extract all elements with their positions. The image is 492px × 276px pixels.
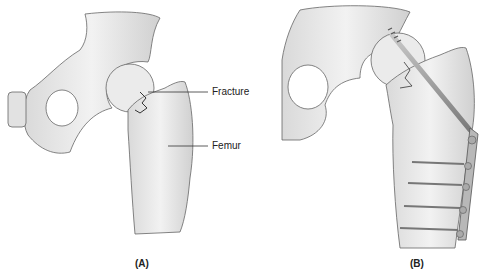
panel-a xyxy=(8,12,208,234)
diagram-canvas xyxy=(0,0,492,276)
obturator-foramen-a xyxy=(46,90,78,126)
label-fracture: Fracture xyxy=(212,86,249,97)
caption-b: (B) xyxy=(410,258,424,269)
caption-a: (A) xyxy=(135,258,149,269)
pubic-end-a xyxy=(8,92,26,127)
obturator-foramen-b xyxy=(288,65,328,109)
femur-a xyxy=(128,81,193,234)
panel-b xyxy=(282,6,478,248)
label-femur: Femur xyxy=(212,140,241,151)
